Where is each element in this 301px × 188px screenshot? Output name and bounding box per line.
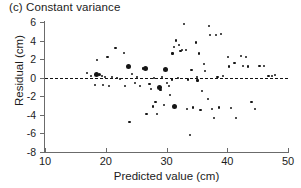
data-point [123, 52, 125, 54]
data-point [131, 73, 133, 75]
data-point [211, 108, 213, 110]
data-point [139, 85, 141, 87]
x-tick-label-10: 10 [30, 155, 60, 167]
data-point [218, 106, 220, 108]
data-point [178, 44, 180, 46]
data-point [143, 66, 148, 71]
data-point [96, 59, 98, 61]
data-point [263, 65, 265, 67]
data-point [168, 85, 170, 87]
y-tick--8 [40, 152, 44, 153]
data-point [163, 104, 165, 106]
y-tick--6 [40, 133, 44, 134]
data-point [245, 56, 247, 58]
data-point [145, 113, 147, 115]
y-tick-2 [40, 59, 44, 60]
data-point [209, 34, 211, 36]
data-point [177, 77, 179, 79]
data-point [208, 25, 210, 27]
y-tick-0 [40, 78, 44, 79]
data-point [173, 46, 175, 48]
data-point [213, 117, 215, 119]
data-point [134, 82, 136, 84]
data-point [172, 104, 177, 109]
data-point [203, 63, 205, 65]
residual-plot-figure: (c) Constant variance -8-6-4-20246 10203… [0, 0, 301, 188]
data-point [274, 74, 276, 76]
data-point [150, 88, 152, 90]
data-point [271, 75, 273, 77]
data-point [116, 77, 118, 79]
panel-title: (c) Constant variance [9, 1, 120, 14]
data-point [195, 41, 197, 43]
data-point [228, 65, 230, 67]
data-point [86, 72, 88, 74]
data-point [114, 47, 116, 49]
data-point [254, 108, 256, 110]
data-point [247, 65, 249, 67]
data-point [222, 75, 224, 77]
data-point [242, 65, 244, 67]
data-point [152, 105, 154, 107]
x-tick-50 [288, 148, 289, 152]
data-point [199, 109, 201, 111]
data-point [171, 78, 173, 80]
x-tick-label-40: 40 [212, 155, 242, 167]
data-point [189, 134, 191, 136]
data-point [250, 101, 252, 103]
data-point [230, 107, 232, 109]
x-tick-label-30: 30 [152, 155, 182, 167]
data-point [181, 49, 183, 51]
data-point [159, 89, 161, 91]
data-point [220, 33, 222, 35]
data-point [198, 52, 200, 54]
data-point [207, 98, 209, 100]
data-point [171, 52, 173, 54]
data-point [235, 117, 237, 119]
zero-reference-line [45, 78, 288, 79]
data-point [201, 90, 203, 92]
y-tick-4 [40, 41, 44, 42]
data-point [111, 76, 113, 78]
y-tick-6 [40, 22, 44, 23]
data-point [216, 76, 218, 78]
data-point [190, 69, 192, 71]
x-axis-title: Predicted value (cm) [45, 170, 288, 183]
data-point [267, 75, 269, 77]
data-point [215, 34, 217, 36]
x-tick-label-20: 20 [91, 155, 121, 167]
data-point [154, 101, 156, 103]
x-axis-line [44, 152, 289, 153]
data-point [240, 55, 242, 57]
data-point [128, 121, 130, 123]
data-point [94, 84, 96, 86]
data-point [126, 64, 131, 69]
data-point [192, 106, 194, 108]
data-point [186, 108, 188, 110]
data-point [102, 84, 104, 86]
data-point [175, 39, 177, 41]
plot-area [45, 22, 288, 152]
data-point [108, 85, 110, 87]
data-point [90, 75, 92, 77]
data-point [101, 75, 103, 77]
data-point [233, 62, 235, 64]
data-point [196, 79, 198, 81]
data-point [185, 49, 187, 51]
data-point [258, 65, 260, 67]
data-point [227, 56, 229, 58]
data-point [187, 78, 189, 80]
data-point [183, 23, 185, 25]
data-point [196, 76, 198, 78]
y-tick--4 [40, 115, 44, 116]
data-point [124, 85, 126, 87]
data-point [163, 67, 168, 72]
data-point [169, 94, 171, 96]
x-tick-label-50: 50 [273, 155, 301, 167]
data-point [204, 70, 206, 72]
data-point [156, 113, 158, 115]
y-tick--2 [40, 96, 44, 97]
data-point [106, 56, 108, 58]
y-axis-title: Residual (cm) [13, 11, 26, 131]
data-point [148, 83, 150, 85]
